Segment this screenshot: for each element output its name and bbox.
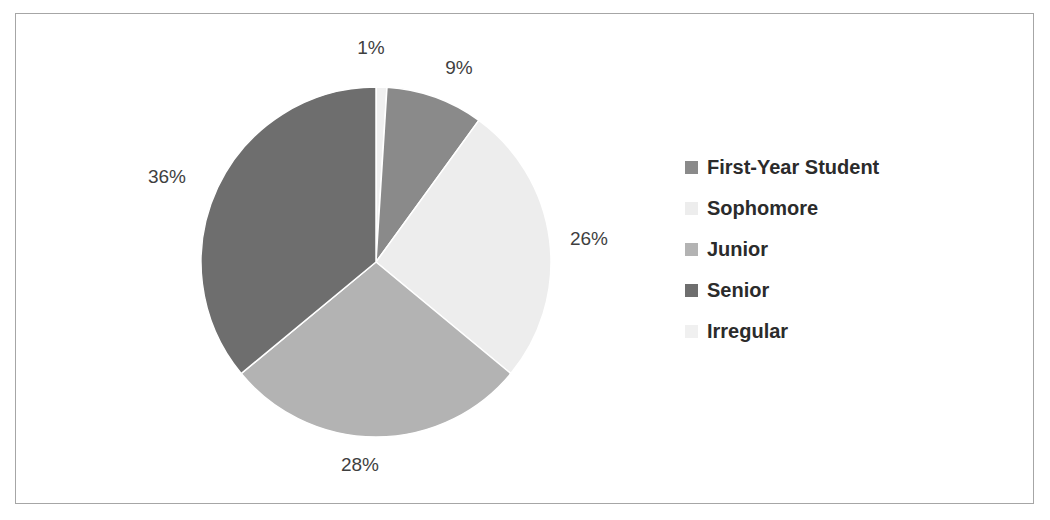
legend-item-label: Irregular (707, 320, 788, 343)
legend-item-label: Senior (707, 279, 769, 302)
legend-item-junior[interactable]: Junior (685, 229, 985, 270)
chart-legend: First-Year StudentSophomoreJuniorSeniorI… (685, 147, 985, 352)
pie-value-label-first-year-student: 9% (445, 57, 472, 79)
pie-slice-group (201, 87, 551, 437)
pie-value-label-junior: 28% (341, 454, 379, 476)
legend-item-sophomore[interactable]: Sophomore (685, 188, 985, 229)
legend-item-label: First-Year Student (707, 156, 879, 179)
chart-frame: 1%9%26%28%36% First-Year StudentSophomor… (15, 13, 1034, 504)
legend-item-irregular[interactable]: Irregular (685, 311, 985, 352)
legend-item-senior[interactable]: Senior (685, 270, 985, 311)
pie-chart-plot-area: 1%9%26%28%36% First-Year StudentSophomor… (16, 14, 1035, 505)
legend-swatch-icon (685, 284, 698, 297)
legend-item-label: Junior (707, 238, 768, 261)
legend-item-first-year-student[interactable]: First-Year Student (685, 147, 985, 188)
legend-swatch-icon (685, 243, 698, 256)
pie-value-label-senior: 36% (148, 166, 186, 188)
legend-swatch-icon (685, 161, 698, 174)
legend-item-label: Sophomore (707, 197, 818, 220)
pie-value-label-irregular: 1% (357, 37, 384, 59)
legend-swatch-icon (685, 202, 698, 215)
legend-swatch-icon (685, 325, 698, 338)
pie-value-label-sophomore: 26% (570, 228, 608, 250)
